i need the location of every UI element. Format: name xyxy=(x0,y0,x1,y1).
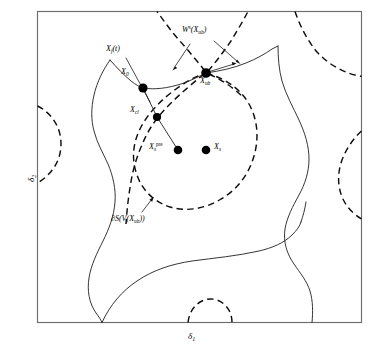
solid-boundary-right xyxy=(278,46,313,323)
axis-label-y-base: δ xyxy=(26,178,36,182)
node-label-xcl-sub: cl xyxy=(135,109,139,115)
node-label-xcl: Xcl xyxy=(130,106,139,114)
arrowhead-node-xub xyxy=(232,62,237,66)
annotation-traj-paren-close: ) xyxy=(117,44,120,53)
annotation-stability-boundary: ∂S(V(Xub)) xyxy=(111,215,145,223)
node-label-x0: X0 xyxy=(121,68,129,76)
node-dot-xcl xyxy=(153,113,161,121)
node-label-xub-sub: ub xyxy=(205,80,210,86)
phase-portrait-canvas xyxy=(0,0,374,354)
annotation-manifold-sup: s xyxy=(189,24,191,30)
node-label-x0-sub: 0 xyxy=(126,71,129,77)
annotation-manifold-paren-close: ) xyxy=(204,25,207,34)
node-label-xs-sub: s xyxy=(219,146,221,152)
arrowhead-manifold-right xyxy=(236,59,241,64)
solid-boundary-left xyxy=(88,60,115,323)
annotation-stable-manifold: Ws(Xub) xyxy=(182,26,206,34)
node-dot-x0 xyxy=(138,83,147,92)
axis-label-x-sub: 1 xyxy=(192,336,195,342)
leader-stability-boundary xyxy=(142,199,152,212)
dashed-level-set-right-edge xyxy=(339,131,362,219)
solid-boundary-connector xyxy=(301,202,306,222)
dashed-level-set-top-right xyxy=(295,12,362,77)
annotation-boundary-prefix: ∂S(V( xyxy=(111,214,129,223)
node-dot-xspre xyxy=(174,146,183,155)
annotation-manifold-base: W xyxy=(182,25,189,34)
dashed-manifold-lower-left xyxy=(126,74,204,224)
node-label-xs: Xs xyxy=(214,143,221,151)
plot-frame xyxy=(38,12,362,323)
dashed-manifold-right xyxy=(209,74,244,98)
annotation-manifold-inner-sub: ub xyxy=(198,29,203,35)
annotation-boundary-inner-sub: ub xyxy=(134,218,139,224)
node-label-xspre: Xspre xyxy=(149,143,163,151)
annotation-fault-trajectory: Xf(t) xyxy=(106,45,120,53)
axis-label-y-sub: 2 xyxy=(31,175,37,178)
figure-container: X0 Xcl Xspre Xs Xub Ws(Xub) Xf(t) ∂S(V(X… xyxy=(0,0,374,354)
dashed-level-set-left-edge xyxy=(38,106,62,183)
node-dot-xs xyxy=(202,146,211,155)
node-label-xub: Xub xyxy=(200,77,210,85)
arrowhead-manifold-left xyxy=(172,67,177,71)
leader-manifold-left xyxy=(174,44,190,68)
dashed-level-set-bottom xyxy=(188,299,232,323)
annotation-boundary-suffix: )) xyxy=(139,214,144,223)
dashed-manifold-upper-left xyxy=(157,12,205,72)
node-label-xspre-sup: pre xyxy=(156,141,163,147)
solid-boundary-lower xyxy=(102,222,301,323)
axis-label-x: δ1 xyxy=(188,331,195,341)
axis-label-y: δ2 xyxy=(26,175,36,182)
